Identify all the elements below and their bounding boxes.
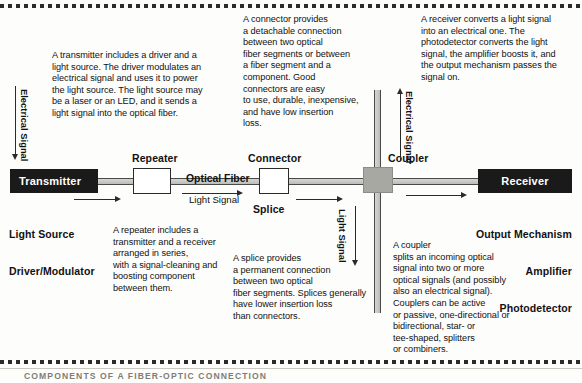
- receiver-block[interactable]: Receiver: [478, 169, 572, 193]
- splice-label: Splice: [253, 203, 285, 215]
- caption-divider: [0, 368, 582, 369]
- transmitter-block[interactable]: Transmitter: [10, 169, 98, 193]
- annotation-amplifier: Amplifier: [432, 265, 572, 277]
- top-dotted-rule: [0, 4, 582, 8]
- annotation-light-source: Light Source: [9, 228, 95, 240]
- note-transmitter: A transmitter includes a driver and a li…: [52, 50, 242, 120]
- light-signal-main-label: Light Signal: [189, 194, 239, 205]
- connector-label: Connector: [248, 152, 301, 164]
- light-signal-down-label: Light Signal: [337, 209, 348, 263]
- receiver-annotations: Output Mechanism Amplifier Photodetector: [432, 203, 572, 339]
- light-signal-down-arrow: [351, 206, 359, 268]
- transmitter-label: Transmitter: [19, 175, 81, 187]
- annotation-driver-modulator: Driver/Modulator: [9, 265, 95, 277]
- annotation-output-mechanism: Output Mechanism: [432, 228, 572, 240]
- light-signal-arrow-4: [406, 191, 468, 199]
- electrical-signal-up-arrow: [396, 88, 404, 160]
- electrical-signal-in-arrow: [11, 86, 19, 162]
- coupler-block[interactable]: [363, 167, 393, 193]
- annotation-photodetector: Photodetector: [432, 302, 572, 314]
- note-receiver: A receiver converts a light signal into …: [421, 14, 581, 84]
- note-connector: A connector provides a detachable connec…: [243, 14, 393, 130]
- figure-canvas: A transmitter includes a driver and a li…: [0, 0, 582, 383]
- note-repeater: A repeater includes a transmitter and a …: [113, 225, 253, 295]
- coupler-fiber-down: [374, 188, 381, 313]
- figure-caption: COMPONENTS OF A FIBER-OPTIC CONNECTION: [24, 371, 267, 381]
- repeater-label: Repeater: [132, 152, 178, 164]
- note-splice: A splice provides a permanent connection…: [233, 253, 383, 323]
- electrical-signal-up-label: Electrical Signal: [404, 91, 415, 163]
- light-signal-arrow-3: [296, 195, 344, 203]
- electrical-signal-in-label: Electrical Signal: [19, 89, 30, 161]
- bottom-dotted-rule: [0, 360, 582, 364]
- connector-block[interactable]: [259, 168, 289, 194]
- repeater-block[interactable]: [133, 168, 171, 194]
- optical-fiber-label: Optical Fiber: [186, 173, 250, 184]
- transmitter-annotations: Light Source Driver/Modulator: [9, 203, 95, 302]
- receiver-label: Receiver: [501, 175, 548, 187]
- light-signal-arrow-1: [74, 195, 122, 203]
